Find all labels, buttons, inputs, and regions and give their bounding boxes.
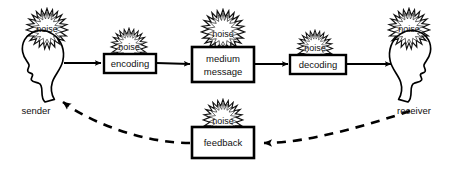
noise-label-encoding: noise [118, 42, 140, 52]
medium-label: medium [206, 53, 240, 64]
box-decoding[interactable]: decoding [290, 55, 346, 74]
communication-model-diagram: sender receiver encoding medium message … [0, 0, 449, 173]
box-medium-message[interactable]: medium message [192, 47, 254, 82]
noise-label-decoding: noise [304, 43, 326, 53]
noise-label-feedback: noise [212, 116, 234, 126]
receiver-label: receiver [397, 105, 431, 116]
box-feedback[interactable]: feedback [192, 127, 254, 158]
sender-label: sender [21, 105, 50, 116]
actor-receiver: receiver [389, 31, 430, 116]
connector-receiver-to-feedback [264, 111, 410, 143]
diagram-canvas: sender receiver encoding medium message … [0, 0, 449, 173]
encoding-label: encoding [111, 58, 150, 69]
connector-feedback-to-sender [63, 102, 190, 143]
connector-encoding-to-medium [156, 63, 190, 64]
noise-label-receiver: noise [398, 24, 420, 34]
decoding-label: decoding [299, 59, 338, 70]
noise-label-sender: noise [36, 24, 58, 34]
feedback-label: feedback [204, 137, 243, 148]
noise-label-medium: noise [212, 29, 234, 39]
box-encoding[interactable]: encoding [104, 54, 156, 73]
message-label: message [204, 66, 243, 77]
